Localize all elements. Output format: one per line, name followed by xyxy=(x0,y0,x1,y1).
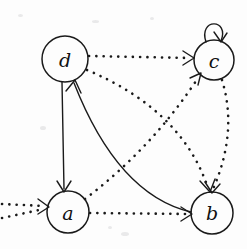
edge-d-to-b-line xyxy=(87,70,208,188)
edge-layer xyxy=(2,24,228,221)
edge-c-to-b-line xyxy=(213,80,228,189)
edge-external-to-a[interactable] xyxy=(2,199,49,218)
edge-c-self-loop[interactable] xyxy=(205,24,227,42)
edge-b-to-d[interactable] xyxy=(66,80,191,212)
node-c-label: c xyxy=(209,50,220,72)
node-a[interactable]: a xyxy=(47,191,89,233)
node-b-label: b xyxy=(206,202,218,224)
node-layer: d c a b xyxy=(42,36,234,234)
node-d-label: d xyxy=(59,49,71,71)
edge-d-to-c[interactable] xyxy=(89,51,194,65)
graph-figure: d c a b xyxy=(0,0,247,249)
edge-a-to-c[interactable] xyxy=(85,73,201,199)
edge-d-to-a-line xyxy=(62,82,64,189)
edge-a-to-b[interactable] xyxy=(90,207,192,221)
edge-d-to-b[interactable] xyxy=(87,70,215,192)
edge-d-to-a[interactable] xyxy=(57,82,71,192)
edge-a-to-b-line xyxy=(90,213,188,214)
edge-c-to-b[interactable] xyxy=(205,80,228,193)
node-c[interactable]: c xyxy=(194,40,234,80)
node-b[interactable]: b xyxy=(191,192,233,234)
edge-b-to-d-line xyxy=(74,83,191,212)
node-d[interactable]: d xyxy=(42,36,88,82)
edge-d-to-c-line xyxy=(89,56,190,58)
edge-external-to-a-line-upper xyxy=(2,204,44,206)
node-a-label: a xyxy=(62,202,73,224)
graph-canvas: d c a b xyxy=(0,0,247,249)
